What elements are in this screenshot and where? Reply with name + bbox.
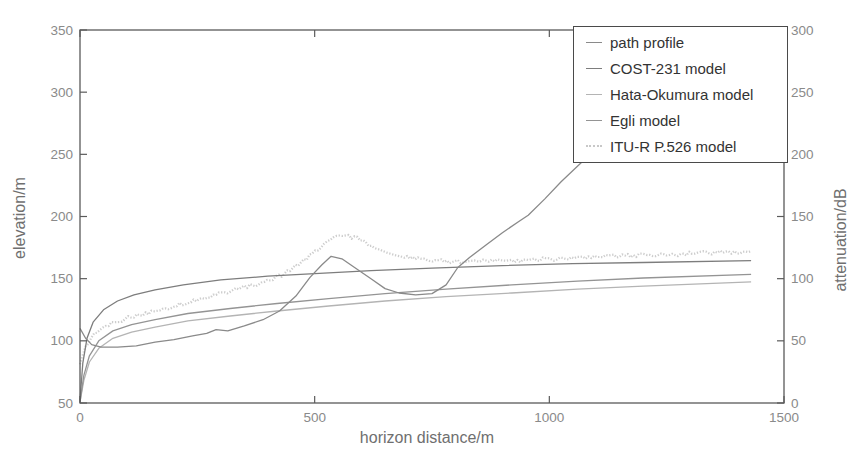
legend-item-path-profile: path profile — [574, 34, 787, 51]
left-y-tick-label: 50 — [58, 396, 73, 411]
left-y-tick-label: 150 — [50, 271, 73, 286]
x-tick-label: 1000 — [534, 410, 564, 425]
left-y-tick-label: 100 — [50, 333, 73, 348]
right-y-tick-label: 250 — [791, 85, 814, 100]
legend-item-hata-okumura: Hata-Okumura model — [574, 86, 787, 103]
legend-item-label: Hata-Okumura model — [610, 86, 753, 103]
legend-item-egli: Egli model — [574, 112, 787, 129]
right-y-tick-label: 0 — [791, 396, 799, 411]
x-tick-label: 500 — [303, 410, 326, 425]
legend-line-sample — [586, 42, 602, 43]
legend-item-label: path profile — [610, 34, 684, 51]
left-y-tick-label: 350 — [50, 23, 73, 38]
right-y-tick-label: 200 — [791, 147, 814, 162]
legend-line-sample — [586, 120, 602, 121]
curve-hata-okumura-model — [80, 282, 751, 402]
legend-item-cost231: COST-231 model — [574, 60, 787, 77]
legend-item-itu-r-p526: ITU-R P.526 model — [574, 138, 787, 155]
x-axis-label-text: horizon distance/m — [360, 429, 494, 447]
legend-item-label: COST-231 model — [610, 60, 726, 77]
legend-line-sample — [586, 145, 602, 147]
right-y-tick-label: 50 — [791, 333, 806, 348]
x-tick-label: 0 — [76, 410, 84, 425]
left-y-tick-label: 250 — [50, 147, 73, 162]
x-axis-label: horizon distance/m — [0, 429, 866, 447]
legend-item-label: Egli model — [610, 112, 680, 129]
figure: 0500100015005010015020025030035005010015… — [0, 0, 866, 470]
right-y-tick-label: 150 — [791, 209, 814, 224]
legend-line-sample — [586, 94, 602, 95]
curve-cost-231-model — [80, 261, 751, 401]
legend-line-sample — [586, 68, 602, 69]
left-y-tick-label: 200 — [50, 209, 73, 224]
legend-item-label: ITU-R P.526 model — [610, 138, 736, 155]
right-y-tick-label: 300 — [791, 23, 814, 38]
left-y-tick-label: 300 — [50, 85, 73, 100]
right-y-axis-label: attenuation/dB — [832, 188, 850, 291]
curve-itu-r-p-526-model — [80, 235, 751, 364]
left-y-axis-label: elevation/m — [11, 177, 29, 259]
right-y-tick-label: 100 — [791, 271, 814, 286]
x-tick-label: 1500 — [769, 410, 799, 425]
legend: path profile COST-231 model Hata-Okumura… — [573, 26, 788, 163]
